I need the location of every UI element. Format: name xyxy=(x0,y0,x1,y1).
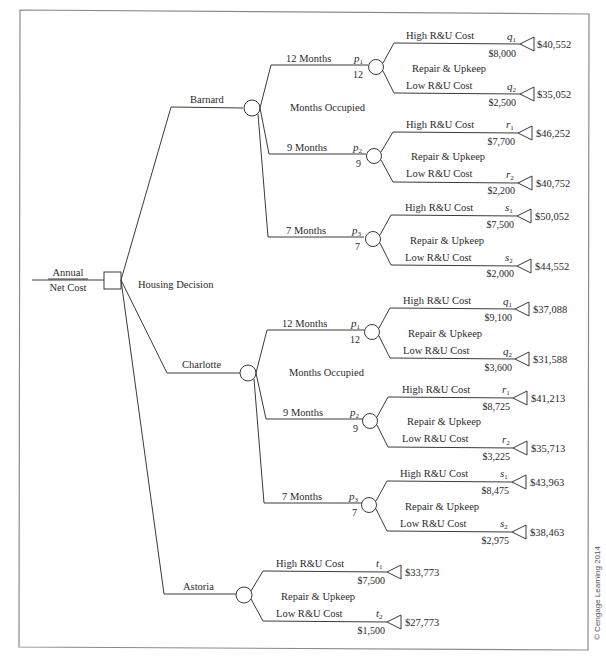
cost-value: $8,475 xyxy=(482,485,510,496)
prob-label: r2 xyxy=(506,168,514,182)
months-value: 7 xyxy=(352,507,357,518)
high-label: High R&U Cost xyxy=(400,468,468,479)
terminal-triangle-icon xyxy=(517,209,531,223)
high-label: High R&U Cost xyxy=(405,202,473,213)
terminal-triangle-icon xyxy=(387,565,401,579)
copyright-notice: © Cengage Learning 2014 xyxy=(593,545,602,640)
months-label: 12 Months xyxy=(286,53,331,64)
cost-value: $7,700 xyxy=(488,136,516,147)
chance-node-ru xyxy=(369,60,384,75)
low-label: Low R&U Cost xyxy=(402,433,469,444)
decision-node xyxy=(104,272,121,289)
cost-value: $1,500 xyxy=(358,625,386,636)
terminal-triangle-icon xyxy=(517,259,531,273)
payoff-value: $46,252 xyxy=(536,128,570,139)
prob-label: p3 xyxy=(351,224,362,238)
payoff-value: $50,052 xyxy=(535,211,569,222)
ru-label: Repair & Upkeep xyxy=(408,328,482,339)
months-value: 7 xyxy=(355,241,360,252)
terminal-triangle-icon xyxy=(512,525,526,539)
decision-label: Housing Decision xyxy=(138,279,214,290)
edge-barnard xyxy=(121,107,243,280)
prob-label: p2 xyxy=(352,141,363,155)
ru-label: Repair & Upkeep xyxy=(412,63,486,74)
high-label: High R&U Cost xyxy=(402,384,470,395)
edge-barnard-7 xyxy=(258,114,364,237)
payoff-value: $43,963 xyxy=(530,477,564,488)
prob-label: s1 xyxy=(500,467,508,481)
chance-node-ru xyxy=(363,414,378,429)
high-label: High R&U Cost xyxy=(403,295,471,306)
months-label: 12 Months xyxy=(282,318,327,329)
chance-node-ru xyxy=(365,325,380,340)
high-label: High R&U Cost xyxy=(406,119,474,130)
decision-tree: Annual Net Cost Housing Decision Barnard… xyxy=(0,0,606,661)
low-label: Low R&U Cost xyxy=(406,80,473,91)
low-label: Low R&U Cost xyxy=(400,518,467,529)
ru-label: Repair & Upkeep xyxy=(411,151,485,162)
terminal-triangle-icon xyxy=(387,615,401,629)
chance-node-barnard xyxy=(244,100,260,116)
payoff-value: $38,463 xyxy=(530,527,564,538)
months-value: 12 xyxy=(350,334,360,345)
months-label: 9 Months xyxy=(283,407,323,418)
terminal-triangle-icon xyxy=(513,441,527,455)
chance-node-ru xyxy=(366,232,381,247)
terminal-triangle-icon xyxy=(515,302,529,316)
months-value: 9 xyxy=(353,423,358,434)
months-value: 12 xyxy=(353,69,363,80)
prob-label: p3 xyxy=(348,490,359,504)
terminal-triangle-icon xyxy=(518,176,532,190)
prob-label: p1 xyxy=(350,317,361,331)
payoff-value: $35,713 xyxy=(531,443,565,454)
alt-label-barnard: Barnard xyxy=(190,94,225,105)
prob-label: t1 xyxy=(376,557,383,571)
ru-label: Repair & Upkeep xyxy=(410,235,484,246)
ru-label: Repair & Upkeep xyxy=(281,591,355,602)
prob-label: r1 xyxy=(506,118,514,132)
edge-charlotte-7 xyxy=(254,379,362,503)
ru-label: Repair & Upkeep xyxy=(407,416,481,427)
cost-value: $8,725 xyxy=(483,401,511,412)
cost-value: $2,000 xyxy=(487,268,515,279)
cost-value: $7,500 xyxy=(358,575,386,586)
chance-label-barnard: Months Occupied xyxy=(290,102,366,113)
low-label: Low R&U Cost xyxy=(403,345,470,356)
payoff-value: $31,588 xyxy=(533,354,567,365)
cost-value: $7,500 xyxy=(487,219,515,230)
payoff-value: $37,088 xyxy=(533,304,567,315)
high-label: High R&U Cost xyxy=(276,558,344,569)
prob-label: s2 xyxy=(500,517,508,531)
prob-label: p2 xyxy=(349,406,360,420)
payoff-value: $40,552 xyxy=(537,39,571,50)
ru-label: Repair & Upkeep xyxy=(405,501,479,512)
edge-charlotte xyxy=(121,280,240,373)
prob-label: p1 xyxy=(353,52,364,66)
cost-value: $9,100 xyxy=(485,312,513,323)
chance-node-ru xyxy=(367,149,382,164)
terminal-triangle-icon xyxy=(515,352,529,366)
months-label: 9 Months xyxy=(287,142,327,153)
terminal-triangle-icon xyxy=(513,391,527,405)
payoff-value: $41,213 xyxy=(531,393,565,404)
chance-node-charlotte xyxy=(240,365,256,381)
prob-label: q1 xyxy=(507,30,517,44)
chance-node-astoria xyxy=(236,587,252,603)
root-label-line2: Net Cost xyxy=(49,282,86,293)
payoff-value: $40,752 xyxy=(536,178,570,189)
cost-value: $2,975 xyxy=(482,535,510,546)
payoff-value: $44,552 xyxy=(535,261,569,272)
terminal-triangle-icon xyxy=(512,475,526,489)
payoff-value: $33,773 xyxy=(405,567,439,578)
terminal-triangle-icon xyxy=(520,37,534,51)
terminal-triangle-icon xyxy=(518,126,532,140)
months-value: 9 xyxy=(356,158,361,169)
prob-label: s1 xyxy=(505,201,513,215)
low-label: Low R&U Cost xyxy=(406,168,473,179)
alt-label-charlotte: Charlotte xyxy=(182,359,221,370)
prob-label: r1 xyxy=(502,383,510,397)
high-label: High R&U Cost xyxy=(406,30,474,41)
cost-value: $2,500 xyxy=(489,97,517,108)
alt-label-astoria: Astoria xyxy=(183,581,214,592)
prob-label: r2 xyxy=(502,433,510,447)
